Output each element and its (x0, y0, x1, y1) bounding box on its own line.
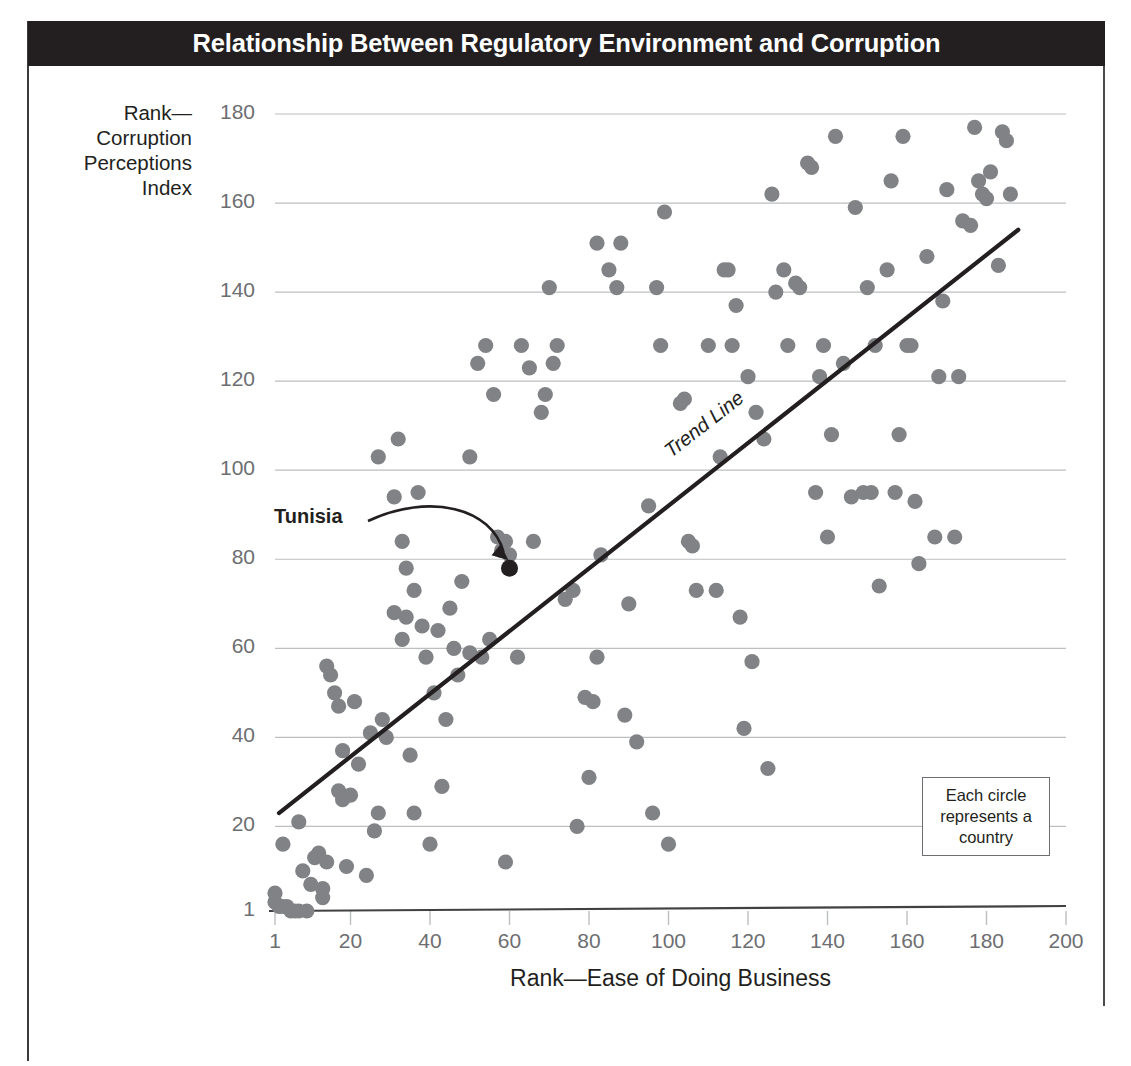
x-tick-label-80: 80 (559, 929, 619, 953)
data-point (267, 886, 282, 901)
data-point (935, 293, 950, 308)
legend-line-2: represents a (940, 807, 1032, 825)
data-point (589, 650, 604, 665)
data-point (577, 690, 592, 705)
data-point (733, 610, 748, 625)
data-point (395, 632, 410, 647)
y-tick-label-100: 100 (195, 456, 255, 480)
figure-right-border (1103, 66, 1105, 1006)
data-point (494, 543, 509, 558)
data-point (570, 819, 585, 834)
data-point (291, 903, 306, 918)
data-point (860, 280, 875, 295)
data-point (474, 650, 489, 665)
data-point (868, 338, 883, 353)
data-point (498, 534, 513, 549)
data-point (979, 191, 994, 206)
x-tick-label-200: 200 (1036, 929, 1096, 953)
data-point (462, 449, 477, 464)
data-point (585, 694, 600, 709)
data-point (291, 814, 306, 829)
data-point (367, 823, 382, 838)
data-point (601, 262, 616, 277)
data-point (820, 529, 835, 544)
data-point (482, 632, 497, 647)
data-points (267, 120, 1018, 919)
x-tick-label-120: 120 (718, 929, 778, 953)
arrow-curve (368, 506, 504, 552)
data-point (621, 596, 636, 611)
data-point (450, 667, 465, 682)
x-tick-label-140: 140 (798, 929, 858, 953)
arrow-head (492, 544, 509, 560)
data-point (892, 427, 907, 442)
data-point (955, 213, 970, 228)
data-point (713, 449, 728, 464)
data-point (343, 788, 358, 803)
y-axis-title-line-3: Perceptions (60, 150, 192, 175)
data-point (629, 734, 644, 749)
data-point (971, 173, 986, 188)
x-tick-label-40: 40 (400, 929, 460, 953)
data-point (848, 200, 863, 215)
x-tick-label-160: 160 (877, 929, 937, 953)
y-tick-label-180: 180 (195, 100, 255, 124)
tunisia-callout-arrow (368, 506, 509, 560)
data-point (470, 356, 485, 371)
data-point (764, 187, 779, 202)
x-tick-label-1: 1 (245, 929, 305, 953)
data-point (748, 405, 763, 420)
data-point (347, 694, 362, 709)
legend-box: Each circle represents a country (922, 777, 1050, 856)
legend-text: Each circle represents a country (936, 785, 1036, 848)
data-point (836, 356, 851, 371)
data-point (303, 877, 318, 892)
data-point (800, 155, 815, 170)
gridlines (275, 114, 1066, 826)
data-point (510, 650, 525, 665)
data-point (721, 262, 736, 277)
data-point (319, 854, 334, 869)
data-point (426, 685, 441, 700)
data-point (331, 699, 346, 714)
y-axis-title-line-2: Corruption (60, 125, 192, 150)
trend-line-label: Trend Line (660, 386, 748, 462)
data-point (657, 204, 672, 219)
data-point (864, 485, 879, 500)
data-point (895, 129, 910, 144)
data-point (335, 743, 350, 758)
data-point (399, 561, 414, 576)
data-point (331, 783, 346, 798)
data-point (701, 338, 716, 353)
data-point (872, 578, 887, 593)
data-point (645, 805, 660, 820)
data-point (538, 387, 553, 402)
data-point (558, 592, 573, 607)
data-point (534, 405, 549, 420)
data-point (907, 494, 922, 509)
trend-line (279, 230, 1018, 813)
tunisia-annotation-label: Tunisia (274, 505, 343, 528)
y-axis-title: Rank— Corruption Perceptions Index (60, 100, 192, 200)
data-point (593, 547, 608, 562)
data-point (422, 837, 437, 852)
legend-line-1: Each circle (946, 786, 1027, 804)
data-point (438, 712, 453, 727)
data-point (375, 712, 390, 727)
data-point (359, 868, 374, 883)
y-tick-label-20: 20 (195, 812, 255, 836)
data-point (899, 338, 914, 353)
data-point (740, 369, 755, 384)
data-point (315, 881, 330, 896)
data-point (927, 529, 942, 544)
data-point (884, 173, 899, 188)
data-point (975, 187, 990, 202)
data-point (283, 903, 298, 918)
data-point (963, 218, 978, 233)
data-point (888, 485, 903, 500)
data-point (335, 792, 350, 807)
title-bar: Relationship Between Regulatory Environm… (28, 21, 1105, 66)
data-point (502, 547, 517, 562)
data-point (776, 262, 791, 277)
data-point (462, 645, 477, 660)
